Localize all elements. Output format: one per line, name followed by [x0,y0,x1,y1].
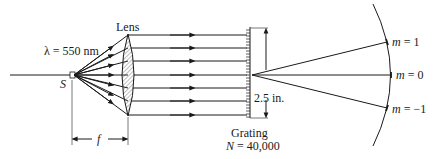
lens [122,34,134,116]
order-plus1-label: m = 1 [392,35,419,49]
lens-label: Lens [116,20,140,34]
order-minus1-label: m = −1 [392,102,426,116]
grating-width-label: 2.5 in. [254,91,284,105]
wavelength-label: λ = 550 nm [44,44,100,58]
grating-label: Grating [231,126,268,140]
source-label: S [60,77,66,91]
grating-lines-label: N = 40,000 [225,139,280,153]
order-zero-label: m = 0 [396,68,423,82]
focal-length-label: f [97,132,102,146]
grating-diagram: λ = 550 nm S Lens f 2.5 in. Grating N = … [0,0,435,159]
collimated-rays [128,35,247,115]
